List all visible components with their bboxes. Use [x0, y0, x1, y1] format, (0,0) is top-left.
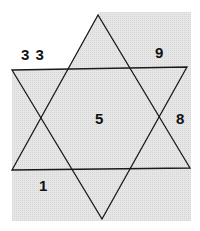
label-top-right: 9 [155, 44, 163, 61]
label-right: 8 [176, 110, 184, 127]
label-center: 5 [95, 110, 103, 127]
star-diagram: 3 3 9 5 8 1 [0, 0, 200, 231]
label-bottom-left: 1 [39, 177, 47, 194]
label-top-left: 3 3 [21, 46, 45, 63]
